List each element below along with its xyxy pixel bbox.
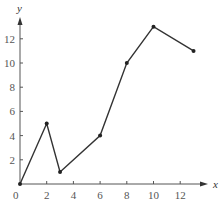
y-tick-label: 10 (4, 57, 16, 69)
x-tick-label: 12 (175, 189, 186, 201)
y-axis-arrow-icon (18, 17, 23, 25)
data-point-marker (192, 49, 196, 53)
y-tick-label: 6 (10, 105, 16, 117)
x-tick-label: 6 (97, 189, 103, 201)
series-line (20, 27, 194, 184)
y-tick-label: 4 (10, 130, 16, 142)
y-tick-label: 2 (10, 154, 16, 166)
ticks: 2468101224681012 (4, 33, 186, 201)
data-point-marker (152, 25, 156, 29)
origin-label: 0 (13, 189, 19, 201)
y-axis-label: y (16, 2, 22, 14)
y-tick-label: 8 (10, 81, 16, 93)
data-series (18, 25, 196, 186)
y-tick-label: 12 (4, 33, 15, 45)
data-point-marker (125, 61, 129, 65)
data-point-marker (58, 170, 62, 174)
data-point-marker (18, 182, 22, 186)
x-tick-label: 10 (148, 189, 160, 201)
x-tick-label: 8 (124, 189, 130, 201)
data-point-marker (98, 134, 102, 138)
x-axis-arrow-icon (200, 182, 208, 187)
x-axis-label: x (212, 178, 218, 190)
line-chart: 2468101224681012 x y 0 (0, 0, 220, 210)
data-point-marker (45, 122, 49, 126)
x-tick-label: 4 (71, 189, 77, 201)
x-tick-label: 2 (44, 189, 50, 201)
